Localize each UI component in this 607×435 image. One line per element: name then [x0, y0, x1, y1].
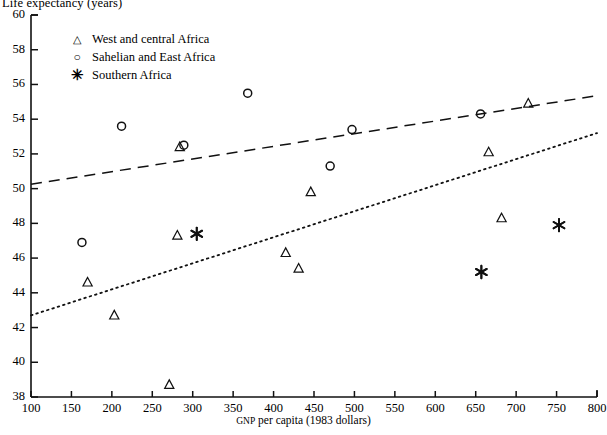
lower-dotted-trend — [31, 133, 597, 315]
y-tick-label: 56 — [1, 76, 25, 91]
data-point-circle — [348, 126, 356, 134]
legend-item-west-central-africa: △ West and central Africa — [66, 30, 215, 48]
data-point-triangle — [83, 277, 92, 286]
y-tick-label: 48 — [1, 215, 25, 230]
y-tick-label: 58 — [1, 42, 25, 57]
triangle-marker-icon: △ — [66, 34, 88, 45]
data-point-star — [476, 266, 487, 278]
legend-label: Southern Africa — [88, 68, 172, 83]
data-point-circle — [78, 238, 86, 246]
chart-container: Life expectancy (years) 3840424446485052… — [0, 0, 607, 435]
y-tick-label: 40 — [1, 354, 25, 369]
legend-item-southern-africa: ✳ Southern Africa — [66, 66, 215, 84]
data-point-triangle — [306, 187, 315, 196]
data-point-star — [191, 228, 202, 240]
chart-legend: △ West and central Africa ○ Sahelian and… — [66, 30, 215, 84]
data-point-circle — [244, 89, 252, 97]
data-point-triangle — [173, 231, 182, 240]
y-tick-label: 60 — [1, 7, 25, 22]
data-points — [78, 89, 564, 388]
y-tick-label: 52 — [1, 146, 25, 161]
star-marker-icon: ✳ — [66, 68, 88, 83]
data-point-triangle — [281, 248, 290, 257]
legend-item-sahelian-east-africa: ○ Sahelian and East Africa — [66, 48, 215, 66]
data-point-triangle — [165, 380, 174, 389]
legend-label: Sahelian and East Africa — [88, 50, 215, 65]
y-tick-label: 44 — [1, 285, 25, 300]
legend-label: West and central Africa — [88, 32, 209, 47]
series-triangle — [83, 99, 533, 389]
data-point-star — [554, 219, 565, 231]
y-tick-label: 42 — [1, 320, 25, 335]
data-point-circle — [118, 122, 126, 130]
data-point-triangle — [497, 213, 506, 222]
series-star — [191, 219, 564, 278]
y-tick-label: 46 — [1, 250, 25, 265]
x-axis-title-prefix: GNP — [236, 416, 255, 426]
x-axis-title-main: per capita (1983 dollars) — [258, 414, 371, 426]
data-point-circle — [326, 162, 334, 170]
circle-marker-icon: ○ — [66, 51, 88, 63]
y-tick-label: 54 — [1, 111, 25, 126]
y-tick-label: 50 — [1, 181, 25, 196]
trend-lines — [31, 96, 597, 316]
upper-dashed-trend — [31, 96, 597, 185]
x-axis-title: GNP per capita (1983 dollars) — [0, 414, 607, 426]
data-point-triangle — [484, 147, 493, 156]
data-point-triangle — [294, 264, 303, 273]
data-point-triangle — [110, 310, 119, 319]
